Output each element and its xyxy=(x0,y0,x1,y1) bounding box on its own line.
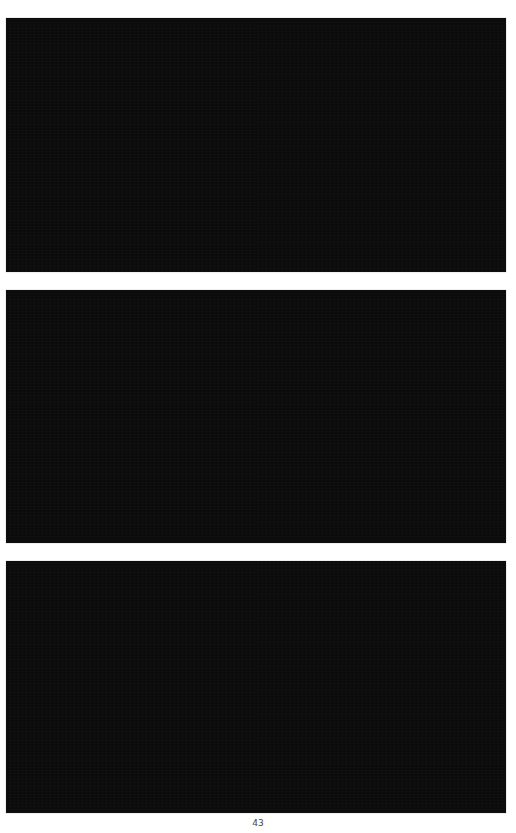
dark-image-panel-3 xyxy=(6,561,506,813)
page-number: 43 xyxy=(0,818,516,828)
dark-image-panel-1 xyxy=(6,18,506,272)
dark-image-panel-2 xyxy=(6,290,506,543)
